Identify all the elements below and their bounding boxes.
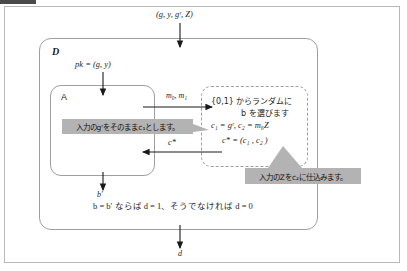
ciphertext-formula: c₁ = gʳ, c₂ = m₆Z xyxy=(211,121,269,130)
decision-rule-label: b = b′ ならば d = 1、そうでなければ d = 0 xyxy=(93,202,253,211)
messages-label: m₀, m₁ xyxy=(166,92,187,101)
random-bit-line-1: {0,1} からランダムに xyxy=(211,98,292,107)
callout-z: 入力のZをc₂に仕込みます。 xyxy=(245,168,361,184)
ciphertext-pair-formula: c* = (c₁ , c₂ ) xyxy=(222,136,268,145)
guess-label: b′ xyxy=(97,191,103,200)
input-tuple-label: (g, y, gʳ, Z) xyxy=(156,10,193,19)
distinguisher-label: D xyxy=(52,46,59,57)
output-label: d xyxy=(178,250,182,259)
public-key-label: pk = (g, y) xyxy=(75,60,111,69)
diagram-canvas: (g, y, gʳ, Z) D A pk = (g, y) m₀, m₁ c* … xyxy=(0,0,407,271)
challenge-ciphertext-label: c* xyxy=(168,138,176,147)
callout-gr: 入力のgʳをそのままc₁とします。 xyxy=(62,119,193,134)
adversary-label: A xyxy=(61,92,67,102)
random-bit-line-2: b を選びます xyxy=(241,110,289,119)
top-edge-band xyxy=(0,0,36,4)
